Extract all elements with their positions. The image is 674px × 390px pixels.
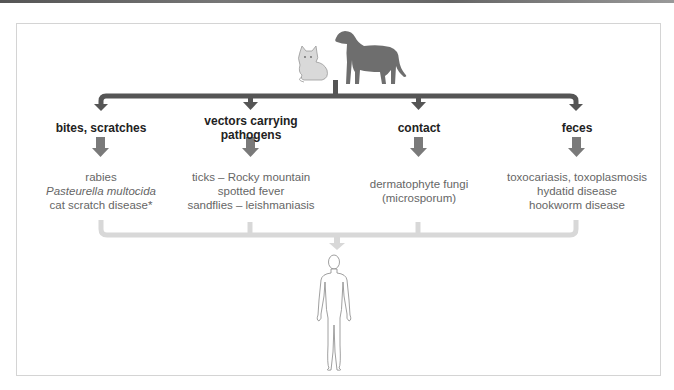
route-label-vectors: vectors carrying pathogens — [166, 114, 336, 142]
cat-icon — [299, 46, 328, 82]
examples-feces: toxocariasis, toxoplasmosis hydatid dise… — [482, 170, 672, 212]
human-figure-icon — [317, 255, 351, 370]
example-ticks: ticks – Rocky mountain — [156, 170, 346, 184]
dog-icon — [335, 31, 406, 84]
example-sandflies: sandflies – leishmaniasis — [156, 198, 346, 212]
main-distribution-bar — [101, 96, 576, 104]
examples-vectors: ticks – Rocky mountain spotted fever san… — [156, 170, 346, 212]
route-label-feces: feces — [492, 121, 662, 135]
source-stub — [333, 80, 338, 95]
merge-bracket — [101, 220, 576, 235]
example-hydatid: hydatid disease — [482, 184, 672, 198]
example-toxocariasis: toxocariasis, toxoplasmosis — [482, 170, 672, 184]
example-spotted-fever: spotted fever — [156, 184, 346, 198]
merge-arrow — [329, 237, 345, 250]
route-label-contact: contact — [334, 121, 504, 135]
route-label-vectors-line2: pathogens — [166, 128, 336, 142]
route-label-vectors-line1: vectors carrying — [166, 114, 336, 128]
route-label-bites-scratches: bites, scratches — [16, 121, 186, 135]
example-hookworm: hookworm disease — [482, 198, 672, 212]
